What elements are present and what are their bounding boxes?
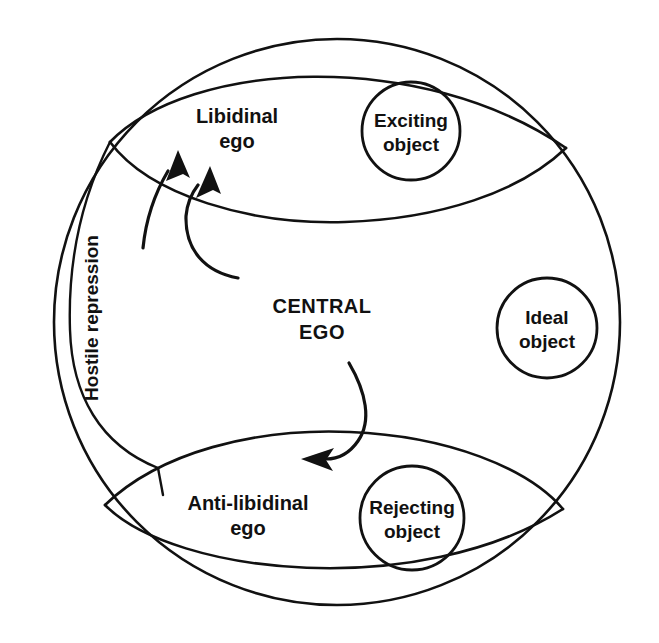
exciting-object-group: Exciting object	[362, 82, 460, 180]
repression-arrow-inner-head	[196, 166, 221, 198]
ideal-object-group: Ideal object	[497, 278, 597, 378]
central-ego-label-line2: EGO	[299, 321, 345, 343]
rejecting-object-group: Rejecting object	[360, 466, 464, 570]
endopsychic-structure-figure: Exciting object Ideal object Rejecting o…	[0, 0, 659, 643]
central-ego-label-line1: CENTRAL	[272, 295, 371, 317]
libidinal-ego-label-line1: Libidinal	[196, 105, 278, 127]
exciting-object-label-line2: object	[383, 134, 440, 155]
central-ego-label: CENTRAL EGO	[272, 295, 371, 343]
hostile-repression-label: Hostile repression	[81, 235, 102, 401]
anti-libidinal-ego-label: Anti-libidinal ego	[187, 492, 308, 539]
rejecting-object-label-line1: Rejecting	[369, 497, 455, 518]
ideal-object-label-line2: object	[519, 331, 576, 352]
aggression-arrow-shaft	[326, 363, 366, 459]
anti-libidinal-ego-label-line1: Anti-libidinal	[187, 492, 308, 514]
anti-libidinal-ego-label-line2: ego	[230, 517, 266, 539]
repression-arrow-outer-shaft	[143, 171, 168, 248]
rejecting-object-label-line2: object	[384, 521, 441, 542]
ideal-object-label-line1: Ideal	[525, 307, 568, 328]
diagram-root: Exciting object Ideal object Rejecting o…	[0, 0, 659, 643]
libidinal-ego-label-line2: ego	[219, 130, 255, 152]
anti-libidinal-ego-upper-edge	[105, 432, 563, 509]
repression-arrow-outer-head	[166, 150, 190, 181]
libidinal-ego-label: Libidinal ego	[196, 105, 278, 152]
exciting-object-label-line1: Exciting	[374, 110, 448, 131]
hostile-repression-band-foot	[158, 468, 163, 495]
